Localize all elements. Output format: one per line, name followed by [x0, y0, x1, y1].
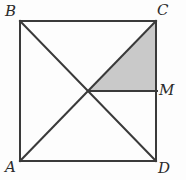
vertex-label-c: C — [157, 3, 168, 18]
vertex-label-b: B — [5, 4, 16, 19]
vertex-label-a: A — [5, 160, 16, 175]
vertex-label-d: D — [158, 161, 170, 176]
geometry-figure: B C M A D — [0, 0, 186, 180]
vertex-label-m: M — [159, 83, 174, 98]
